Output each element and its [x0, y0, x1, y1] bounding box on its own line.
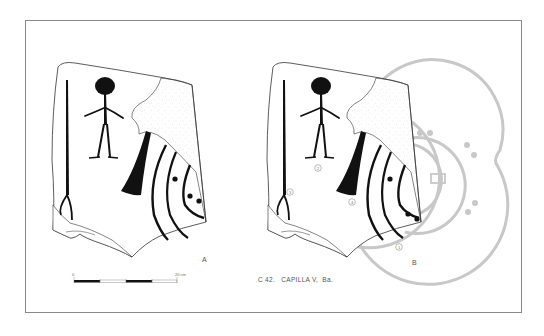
- motif-number-1: 1: [398, 245, 401, 250]
- scale-bar: [74, 277, 177, 283]
- sherd-drawing-a: [52, 63, 206, 258]
- scale-start-label: 0: [72, 272, 74, 277]
- scale-end-label: 20 cm: [175, 272, 186, 277]
- plate-drawings: 1 2 3 4: [0, 0, 544, 336]
- panel-a-label: A: [202, 256, 207, 263]
- sherd-drawing-b: 1 2 3 4: [267, 63, 421, 258]
- figure-caption: C 42. CAPILLA V, Ba.: [258, 276, 333, 283]
- panel-b-label: B: [412, 259, 417, 266]
